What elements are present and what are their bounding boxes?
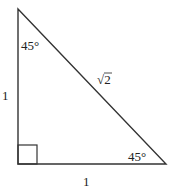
bottom-side-label: 1 bbox=[83, 174, 90, 189]
left-side-label: 1 bbox=[2, 88, 9, 103]
triangle-svg: 45° 45° 1 1 √2 bbox=[0, 0, 172, 193]
triangle-outline bbox=[18, 9, 166, 164]
triangle-diagram: 45° 45° 1 1 √2 bbox=[0, 0, 172, 193]
bottom-angle-label: 45° bbox=[128, 149, 146, 164]
top-angle-label: 45° bbox=[21, 38, 39, 53]
right-angle-marker bbox=[18, 145, 37, 164]
hypotenuse-label: √2 bbox=[97, 72, 111, 87]
